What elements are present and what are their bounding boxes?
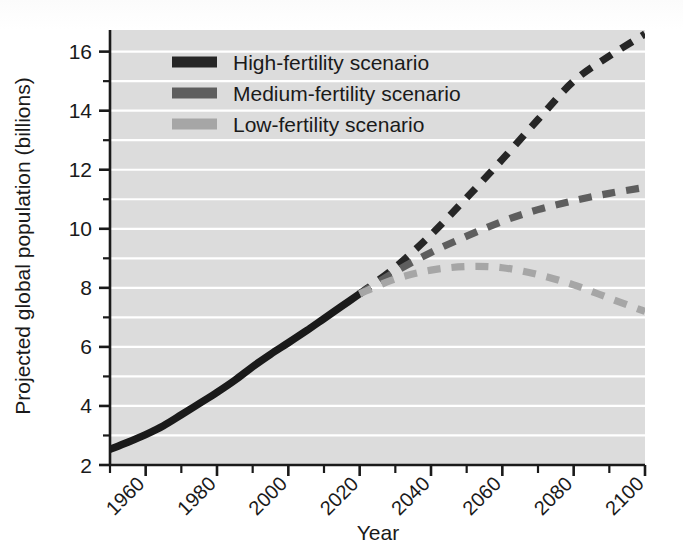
y-tick-label: 6	[80, 335, 92, 358]
x-axis-title: Year	[357, 521, 399, 544]
y-tick-label: 14	[69, 99, 93, 122]
chart-legend: High-fertility scenarioMedium-fertility …	[172, 51, 461, 136]
y-tick-label: 10	[69, 217, 92, 240]
legend-label-high-fertility-scenario: High-fertility scenario	[233, 51, 429, 74]
y-tick-label: 12	[69, 158, 92, 181]
chart-canvas: 161412108642 196019802000202020402060208…	[0, 0, 683, 553]
legend-label-low-fertility-scenario: Low-fertility scenario	[233, 113, 424, 136]
y-tick-label: 16	[69, 40, 92, 63]
y-axis-tick-labels: 161412108642	[69, 40, 93, 476]
x-axis-tick-labels: 19601980200020202040206020802100	[101, 472, 647, 519]
y-tick-label: 8	[80, 276, 92, 299]
legend-swatch-high-fertility-scenario	[172, 57, 217, 68]
legend-label-medium-fertility-scenario: Medium-fertility scenario	[233, 82, 461, 105]
y-tick-label: 4	[80, 394, 92, 417]
x-tick-label: 2100	[601, 472, 648, 519]
x-tick-label: 1980	[173, 472, 220, 519]
y-tick-label: 2	[80, 454, 92, 477]
legend-swatch-low-fertility-scenario	[172, 119, 217, 130]
x-tick-label: 2060	[458, 472, 505, 519]
x-tick-label: 2020	[315, 472, 362, 519]
legend-swatch-medium-fertility-scenario	[172, 88, 217, 99]
x-axis-ticks	[110, 465, 645, 476]
y-axis-title: Projected global population (billions)	[11, 77, 34, 414]
x-tick-label: 2000	[244, 472, 291, 519]
y-axis-ticks	[99, 52, 110, 465]
x-tick-label: 2080	[529, 472, 576, 519]
x-tick-label: 1960	[101, 472, 148, 519]
population-projection-chart: 161412108642 196019802000202020402060208…	[0, 0, 683, 553]
x-tick-label: 2040	[387, 472, 434, 519]
